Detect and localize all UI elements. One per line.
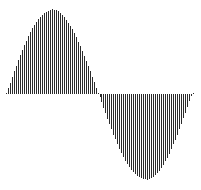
bar: [36, 22, 37, 94]
bar: [22, 50, 23, 94]
bar: [171, 94, 172, 149]
bar: [179, 94, 180, 129]
bar: [161, 94, 162, 168]
bar: [18, 60, 19, 94]
bar: [167, 94, 168, 158]
bar: [173, 94, 174, 144]
bar: [175, 94, 176, 140]
bar: [38, 19, 39, 94]
bar: [103, 94, 104, 108]
bar: [70, 26, 71, 94]
bar: [177, 94, 178, 135]
bar: [40, 17, 41, 94]
bar: [137, 94, 138, 176]
bar: [149, 94, 150, 179]
bar: [191, 94, 192, 96]
bar: [143, 94, 144, 179]
bar: [115, 94, 116, 139]
bar: [60, 13, 61, 94]
bar: [34, 25, 35, 94]
bar: [54, 10, 55, 94]
bar: [80, 46, 81, 94]
bar: [44, 13, 45, 94]
bar: [163, 94, 164, 165]
bar: [153, 94, 154, 177]
bar: [151, 94, 152, 178]
bar: [139, 94, 140, 177]
bar: [52, 9, 53, 94]
bar: [107, 94, 108, 119]
bar: [127, 94, 128, 164]
bar: [74, 33, 75, 94]
bar: [72, 29, 73, 94]
bar: [10, 83, 11, 94]
bar: [68, 23, 69, 94]
bar: [94, 82, 95, 94]
bar: [189, 94, 190, 101]
bar: [101, 94, 102, 102]
bar: [117, 94, 118, 144]
bar: [14, 71, 15, 94]
bar: [50, 10, 51, 94]
bar: [32, 28, 33, 94]
bar: [109, 94, 110, 124]
bar: [145, 94, 146, 179]
bar: [111, 94, 112, 129]
bar: [98, 93, 99, 94]
bar: [66, 20, 67, 94]
bar: [64, 17, 65, 94]
bar: [181, 94, 182, 124]
bar: [159, 94, 160, 171]
bar: [28, 36, 29, 94]
bar: [56, 10, 57, 94]
bar: [48, 11, 49, 94]
sine-wave-bar-figure: [0, 0, 201, 190]
bar: [105, 94, 106, 113]
bar: [76, 37, 77, 94]
bar: [42, 15, 43, 94]
bar: [119, 94, 120, 149]
bar: [135, 94, 136, 174]
bar: [46, 12, 47, 94]
bar: [193, 93, 194, 94]
bar: [8, 88, 9, 94]
bar-series: [0, 0, 201, 190]
bar: [100, 94, 101, 97]
bar: [84, 56, 85, 94]
bar: [183, 94, 184, 118]
bar: [92, 77, 93, 94]
bar: [86, 61, 87, 94]
bar: [58, 11, 59, 94]
bar: [82, 51, 83, 94]
bar: [16, 66, 17, 94]
bar: [121, 94, 122, 153]
bar: [90, 71, 91, 94]
bar: [96, 88, 97, 94]
bar: [185, 94, 186, 113]
bar: [129, 94, 130, 167]
bar: [133, 94, 134, 172]
bar: [123, 94, 124, 157]
bar: [78, 42, 79, 94]
bar: [24, 45, 25, 94]
bar: [187, 94, 188, 107]
bar: [88, 66, 89, 94]
bar: [141, 94, 142, 178]
bar: [20, 55, 21, 94]
bar: [6, 93, 7, 94]
bar: [113, 94, 114, 135]
bar: [125, 94, 126, 161]
bar: [30, 32, 31, 94]
bar: [62, 15, 63, 94]
bar: [131, 94, 132, 170]
bar: [169, 94, 170, 154]
bar: [155, 94, 156, 175]
bar: [147, 94, 148, 180]
bar: [165, 94, 166, 161]
bar: [12, 77, 13, 94]
plot-area: [0, 0, 201, 190]
bar: [26, 41, 27, 94]
bar: [157, 94, 158, 173]
